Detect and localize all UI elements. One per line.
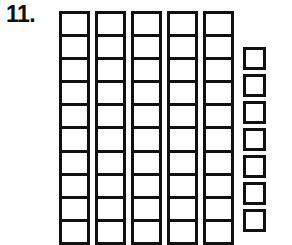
unit-cell (62, 176, 87, 199)
unit-cell (170, 106, 195, 129)
unit-cell (134, 37, 159, 60)
one-square (243, 209, 266, 232)
unit-cell (62, 37, 87, 60)
unit-cell (170, 199, 195, 222)
ten-rod (131, 11, 162, 245)
unit-cell (170, 60, 195, 83)
unit-cell (62, 14, 87, 37)
unit-cell (62, 129, 87, 152)
unit-cell (170, 129, 195, 152)
unit-cell (170, 222, 195, 242)
one-square (243, 182, 266, 205)
ten-rod (95, 11, 126, 245)
ten-rod (203, 11, 234, 245)
unit-cell (206, 129, 231, 152)
unit-cell (98, 60, 123, 83)
unit-cell (134, 199, 159, 222)
unit-cell (170, 83, 195, 106)
unit-cell (134, 83, 159, 106)
unit-cell (134, 129, 159, 152)
unit-cell (134, 222, 159, 242)
one-square (243, 101, 266, 124)
one-square (243, 74, 266, 97)
unit-cell (170, 14, 195, 37)
unit-cell (98, 106, 123, 129)
unit-cell (134, 60, 159, 83)
unit-cell (170, 176, 195, 199)
unit-cell (98, 14, 123, 37)
unit-cell (134, 106, 159, 129)
unit-cell (62, 106, 87, 129)
one-square (243, 47, 266, 70)
unit-cell (206, 83, 231, 106)
unit-cell (62, 153, 87, 176)
unit-cell (62, 222, 87, 242)
unit-cell (206, 153, 231, 176)
unit-cell (170, 37, 195, 60)
unit-cell (98, 37, 123, 60)
unit-cell (98, 176, 123, 199)
unit-cell (134, 176, 159, 199)
unit-cell (206, 37, 231, 60)
unit-cell (206, 14, 231, 37)
unit-cell (134, 153, 159, 176)
unit-cell (98, 199, 123, 222)
unit-cell (206, 60, 231, 83)
unit-cell (206, 199, 231, 222)
unit-cell (62, 83, 87, 106)
ten-rod (59, 11, 90, 245)
unit-cell (62, 60, 87, 83)
ten-rod (167, 11, 198, 245)
unit-cell (206, 222, 231, 242)
one-square (243, 155, 266, 178)
unit-cell (62, 199, 87, 222)
one-square (243, 128, 266, 151)
unit-cell (206, 106, 231, 129)
unit-cell (98, 222, 123, 242)
unit-cell (170, 153, 195, 176)
unit-cell (134, 14, 159, 37)
unit-cell (98, 83, 123, 106)
unit-cell (206, 176, 231, 199)
unit-cell (98, 129, 123, 152)
unit-cell (98, 153, 123, 176)
